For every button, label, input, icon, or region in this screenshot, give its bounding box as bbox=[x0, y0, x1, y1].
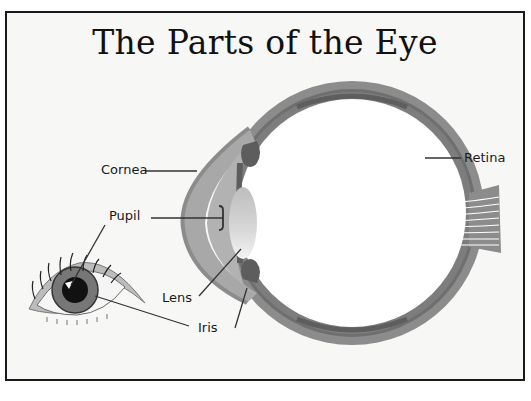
eye-diagram bbox=[7, 13, 523, 379]
pupil-front bbox=[62, 277, 88, 303]
diagram-frame: The Parts of the Eye bbox=[5, 11, 525, 381]
label-lens: Lens bbox=[162, 290, 192, 305]
label-cornea: Cornea bbox=[101, 162, 147, 177]
label-pupil: Pupil bbox=[109, 208, 140, 223]
eyeball-cross-section bbox=[182, 81, 501, 345]
label-iris: Iris bbox=[198, 320, 218, 335]
label-retina: Retina bbox=[464, 150, 505, 165]
lens-shape bbox=[229, 187, 257, 259]
vitreous-body bbox=[238, 99, 466, 327]
front-eye-illustration bbox=[29, 253, 145, 325]
lower-lashes bbox=[47, 314, 107, 325]
